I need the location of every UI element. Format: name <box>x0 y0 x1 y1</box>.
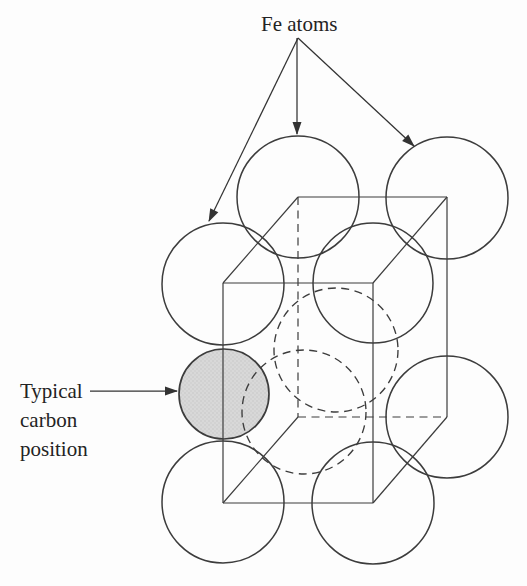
unit-cell-edge <box>373 417 447 503</box>
carbon-position-label: Typical carbon position <box>20 377 88 464</box>
annotation-arrow <box>298 38 414 146</box>
carbon-atom-circle <box>179 349 269 439</box>
carbon-position-label-line2: carbon <box>20 406 88 435</box>
carbon-position-label-line3: position <box>20 435 88 464</box>
crystal-structure-diagram <box>0 0 527 586</box>
unit-cell-edge <box>223 197 298 283</box>
fe-atoms-label: Fe atoms <box>261 10 337 39</box>
annotation-arrow <box>209 38 298 221</box>
carbon-atom-layer <box>179 349 269 439</box>
carbon-position-label-line1: Typical <box>20 377 88 406</box>
hidden-fe-atom-circle <box>274 288 398 412</box>
martensite-unit-cell-figure: Fe atoms Typical carbon position <box>0 0 527 586</box>
unit-cell-edge <box>373 197 447 283</box>
